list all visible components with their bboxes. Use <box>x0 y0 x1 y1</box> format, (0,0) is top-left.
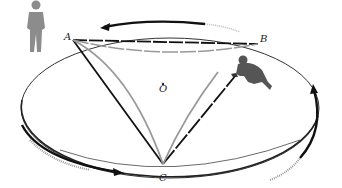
point-o-label: O <box>159 84 167 94</box>
disk-rim-lower-thick <box>21 100 318 177</box>
chord-c-observer <box>163 75 236 164</box>
kneeling-figure <box>231 56 272 91</box>
point-b-label: B <box>260 34 267 44</box>
chord-ac <box>73 40 163 164</box>
rotating-disk-diagram <box>0 0 342 188</box>
point-c-label: C <box>159 173 167 183</box>
standing-figure <box>27 1 45 53</box>
chord-ab <box>73 40 258 44</box>
arrowhead-top-icon <box>100 23 110 31</box>
curved-path-c <box>163 72 218 164</box>
rotation-arrow-top <box>104 22 205 27</box>
point-a-label: A <box>64 32 71 42</box>
rotation-arrow-bottom-left <box>22 125 118 172</box>
